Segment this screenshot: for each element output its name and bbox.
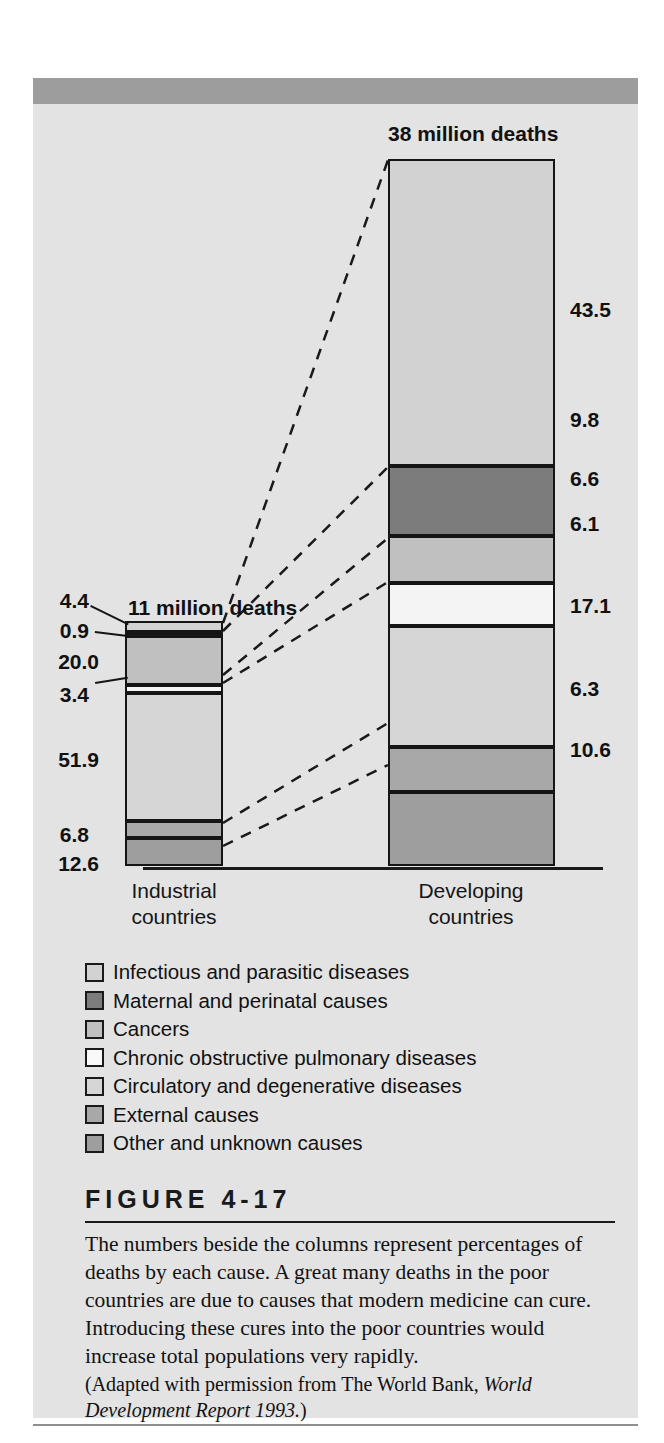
segment-infectious-developing <box>388 159 555 466</box>
page-bottom-rule <box>33 1424 638 1426</box>
segment-external-developing <box>388 747 555 792</box>
value-label-developing-2: 6.6 <box>570 467 599 491</box>
segment-circulatory-industrial <box>125 693 223 821</box>
value-label-industrial-3: 3.4 <box>33 683 89 707</box>
industrial-total-label: 11 million deaths <box>128 596 297 620</box>
value-label-developing-5: 6.3 <box>570 677 599 701</box>
legend-item-other: Other and unknown causes <box>85 1129 605 1158</box>
figure-panel: 11 million deaths 4.4 0.9 20.0 3.4 51.9 … <box>33 78 638 1418</box>
segment-maternal-developing <box>388 466 555 536</box>
value-label-developing-1: 9.8 <box>570 408 599 432</box>
segment-cancers-industrial <box>125 636 223 685</box>
segment-external-industrial <box>125 821 223 838</box>
legend-label-maternal: Maternal and perinatal causes <box>113 989 388 1013</box>
legend-label-external: External causes <box>113 1103 259 1127</box>
axis-label-developing: Developing countries <box>406 878 536 931</box>
legend-item-chronic: Chronic obstructive pulmonary diseases <box>85 1044 605 1073</box>
value-label-industrial-2: 20.0 <box>33 650 99 674</box>
legend-swatch-circulatory-icon <box>85 1077 104 1096</box>
segment-chronic-developing <box>388 583 555 626</box>
legend-label-infectious: Infectious and parasitic diseases <box>113 960 409 984</box>
value-label-developing-0: 43.5 <box>570 298 611 322</box>
segment-cancers-developing <box>388 536 555 583</box>
figure-caption-block: FIGURE 4-17 The numbers beside the colum… <box>85 1185 615 1423</box>
source-prefix: (Adapted with permission from The World … <box>85 1373 484 1395</box>
stacked-bar-chart: 11 million deaths 4.4 0.9 20.0 3.4 51.9 … <box>33 78 638 888</box>
legend-swatch-infectious-icon <box>85 963 104 982</box>
bar-industrial-countries <box>125 622 223 867</box>
value-label-industrial-1: 0.9 <box>33 619 89 643</box>
developing-total-label: 38 million deaths <box>388 122 558 146</box>
chart-legend: Infectious and parasitic diseases Matern… <box>85 958 605 1158</box>
legend-swatch-other-icon <box>85 1134 104 1153</box>
legend-item-infectious: Infectious and parasitic diseases <box>85 958 605 987</box>
source-suffix: ) <box>300 1399 307 1421</box>
caption-divider <box>85 1221 615 1223</box>
segment-chronic-industrial <box>125 685 223 693</box>
value-label-industrial-5: 6.8 <box>33 823 89 847</box>
segment-other-industrial <box>125 838 223 866</box>
value-label-industrial-4: 51.9 <box>33 748 99 772</box>
axis-label-industrial: Industrial countries <box>109 878 239 931</box>
legend-swatch-cancers-icon <box>85 1020 104 1039</box>
axis-label-industrial-line1: Industrial <box>131 879 216 902</box>
legend-item-maternal: Maternal and perinatal causes <box>85 987 605 1016</box>
legend-label-cancers: Cancers <box>113 1017 189 1041</box>
legend-label-other: Other and unknown causes <box>113 1131 363 1155</box>
segment-infectious-industrial <box>125 621 223 632</box>
legend-swatch-external-icon <box>85 1105 104 1124</box>
legend-swatch-chronic-icon <box>85 1048 104 1067</box>
legend-item-cancers: Cancers <box>85 1015 605 1044</box>
legend-item-circulatory: Circulatory and degenerative diseases <box>85 1072 605 1101</box>
figure-caption-text: The numbers beside the columns represent… <box>85 1231 615 1371</box>
legend-item-external: External causes <box>85 1101 605 1130</box>
value-label-developing-3: 6.1 <box>570 512 599 536</box>
figure-number: FIGURE 4-17 <box>85 1185 615 1214</box>
value-label-industrial-6: 12.6 <box>33 852 99 876</box>
chart-baseline <box>143 867 603 870</box>
segment-other-developing <box>388 792 555 866</box>
axis-label-developing-line2: countries <box>428 905 513 928</box>
legend-label-chronic: Chronic obstructive pulmonary diseases <box>113 1046 476 1070</box>
axis-label-developing-line1: Developing <box>418 879 523 902</box>
value-label-developing-4: 17.1 <box>570 594 611 618</box>
segment-circulatory-developing <box>388 626 555 747</box>
legend-swatch-maternal-icon <box>85 991 104 1010</box>
value-label-developing-6: 10.6 <box>570 738 611 762</box>
legend-label-circulatory: Circulatory and degenerative diseases <box>113 1074 462 1098</box>
value-label-industrial-0: 4.4 <box>33 589 89 613</box>
axis-label-industrial-line2: countries <box>131 905 216 928</box>
bar-developing-countries <box>388 160 555 867</box>
figure-source-line: (Adapted with permission from The World … <box>85 1371 615 1423</box>
